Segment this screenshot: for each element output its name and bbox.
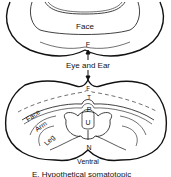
upper-face-label: Face [76, 22, 94, 31]
arm-label: Arm [34, 120, 49, 133]
caption: E. Hypothetical somatotopic [32, 170, 131, 177]
leg-label: Leg [43, 133, 57, 147]
lower-f-marker: F [86, 85, 90, 91]
lower-face-label: Face [25, 108, 42, 123]
eye-and-ear-label: Eye and Ear [66, 61, 110, 70]
u-marker: U [85, 119, 90, 126]
ventral-label: Ventral [77, 158, 99, 165]
p-marker: P [87, 106, 92, 113]
n-marker: N [86, 144, 91, 151]
somatotopic-diagram: Face F Eye and Ear F T P U N Face Arm Le… [0, 0, 171, 177]
t-marker: T [87, 94, 91, 100]
upper-f-marker: F [86, 41, 90, 48]
